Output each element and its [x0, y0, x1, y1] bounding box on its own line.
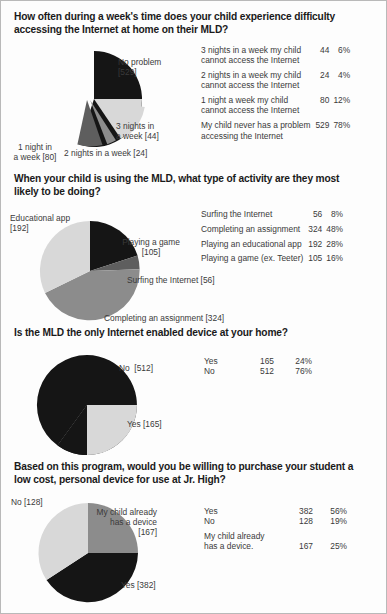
legend-label: Yes	[204, 356, 244, 366]
pie-1-label-2-nights: 2 nights in a week [24]	[64, 148, 147, 158]
legend-label: My child never has a problem accessing t…	[201, 116, 315, 141]
legend-label: My child already has a device.	[204, 527, 287, 552]
legend-1-table: 3 nights in a week my child cannot acces…	[201, 45, 350, 141]
pie-3-label-no: No [512]	[119, 363, 153, 373]
legend-percent: 56%	[317, 506, 347, 516]
legend-label: No	[204, 516, 287, 526]
pie-chart-2	[33, 221, 149, 321]
legend-percent: 48%	[326, 219, 343, 234]
legend-count: 105	[308, 249, 326, 264]
legend-count: 512	[244, 366, 278, 376]
legend-table-4: Yes 382 56% No 128 19% My child already …	[204, 506, 347, 552]
legend-count: 529	[315, 116, 333, 141]
pie-2-label-surfing: Surfing the Internet [56]	[127, 275, 215, 285]
legend-count: 192	[308, 234, 326, 249]
legend-row: Yes 165 24%	[204, 356, 312, 366]
legend-row: Surfing the Internet 56 8%	[201, 209, 343, 219]
question-heading-4: Based on this program, would you be will…	[14, 461, 359, 486]
legend-row: 1 night a week my child cannot access th…	[201, 91, 350, 116]
legend-percent: 4%	[333, 66, 350, 91]
question-heading-3: Is the MLD the only Internet enabled dev…	[14, 327, 364, 340]
legend-row: My child already has a device. 167 25%	[204, 527, 347, 552]
legend-row: Yes 382 56%	[204, 506, 347, 516]
legend-percent: 24%	[278, 356, 312, 366]
survey-section-2: When your child is using the MLD, what t…	[1, 173, 387, 325]
legend-percent: 6%	[333, 45, 350, 66]
pie-chart-2-svg	[33, 221, 149, 321]
legend-row: Playing an educational app 192 28%	[201, 234, 343, 249]
legend-2-table: Surfing the Internet 56 8% Completing an…	[201, 209, 343, 264]
pie-1-label-1-night: 1 night in a week [80]	[7, 142, 63, 162]
survey-section-4: Based on this program, would you be will…	[1, 461, 387, 614]
legend-row: 3 nights in a week my child cannot acces…	[201, 45, 350, 66]
pie-3-label-yes: Yes [165]	[127, 419, 162, 429]
pie-4-label-yes: Yes [382]	[121, 580, 156, 590]
legend-label: 1 night a week my child cannot access th…	[201, 91, 315, 116]
legend-label: Surfing the Internet	[201, 209, 308, 219]
pie-4-label-no: No [128]	[11, 497, 43, 507]
legend-table-1: 3 nights in a week my child cannot acces…	[201, 45, 350, 141]
pie-1-label-3-nights: 3 nights in a week [44]	[116, 121, 159, 141]
legend-label: Completing an assignment	[201, 219, 308, 234]
legend-percent: 16%	[326, 249, 343, 264]
legend-label: Yes	[204, 506, 287, 516]
legend-label: No	[204, 366, 244, 376]
survey-section-1: How often during a week's time does your…	[1, 1, 387, 166]
legend-percent: 8%	[326, 209, 343, 219]
legend-label: 3 nights in a week my child cannot acces…	[201, 45, 315, 66]
legend-count: 56	[308, 209, 326, 219]
survey-results-page: How often during a week's time does your…	[0, 0, 387, 614]
legend-row: 2 nights in a week my child cannot acces…	[201, 66, 350, 91]
legend-row: Completing an assignment 324 48%	[201, 219, 343, 234]
legend-label: Playing an educational app	[201, 234, 308, 249]
legend-count: 324	[308, 219, 326, 234]
legend-count: 80	[315, 91, 333, 116]
legend-row: My child never has a problem accessing t…	[201, 116, 350, 141]
legend-label: 2 nights in a week my child cannot acces…	[201, 66, 315, 91]
legend-percent: 19%	[317, 516, 347, 526]
legend-row: No 128 19%	[204, 516, 347, 526]
legend-table-3: Yes 165 24% No 512 76%	[204, 356, 312, 377]
legend-count: 128	[287, 516, 317, 526]
legend-percent: 76%	[278, 366, 312, 376]
legend-percent: 25%	[317, 527, 347, 552]
pie-2-label-educational-app: Educational app [192]	[10, 213, 70, 233]
legend-label: Playing a game (ex. Teeter)	[201, 249, 308, 264]
legend-percent: 78%	[333, 116, 350, 141]
question-heading-2: When your child is using the MLD, what t…	[14, 173, 344, 198]
pie-1-label-no-problem: No problem [529]	[118, 57, 161, 77]
legend-percent: 12%	[333, 91, 350, 116]
pie-4-label-already-has-device: My child already has a device [167]	[61, 507, 157, 538]
legend-count: 24	[315, 66, 333, 91]
question-heading-1: How often during a week's time does your…	[14, 11, 354, 36]
legend-count: 44	[315, 45, 333, 66]
legend-4-table: Yes 382 56% No 128 19% My child already …	[204, 506, 347, 552]
legend-count: 167	[287, 527, 317, 552]
legend-count: 382	[287, 506, 317, 516]
legend-percent: 28%	[326, 234, 343, 249]
legend-count: 165	[244, 356, 278, 366]
legend-table-2: Surfing the Internet 56 8% Completing an…	[201, 209, 343, 264]
legend-row: No 512 76%	[204, 366, 312, 376]
legend-row: Playing a game (ex. Teeter) 105 16%	[201, 249, 343, 264]
pie-2-label-playing-a-game: Playing a game [105]	[111, 237, 191, 257]
legend-3-table: Yes 165 24% No 512 76%	[204, 356, 312, 377]
pie-2-label-assignment: Completing an assignment [324]	[104, 313, 224, 323]
survey-section-3: Is the MLD the only Internet enabled dev…	[1, 327, 387, 459]
